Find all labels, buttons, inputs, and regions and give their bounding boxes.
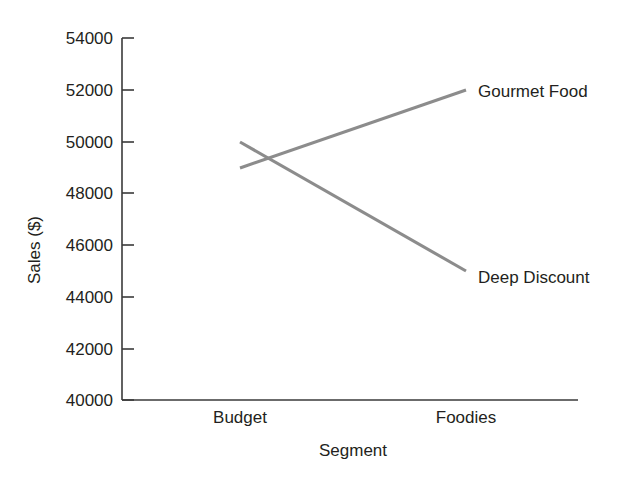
- y-tick-label-4: 46000: [66, 236, 113, 255]
- interaction-plot-chart: 54000 52000 50000 48000 46000 44000 4200…: [0, 0, 634, 486]
- series-line-deep-discount: [240, 142, 466, 271]
- x-axis-title: Segment: [319, 441, 387, 460]
- y-tick-label-3: 48000: [66, 184, 113, 203]
- series-label-gourmet-food: Gourmet Food: [478, 82, 588, 101]
- y-tick-label-2: 50000: [66, 133, 113, 152]
- series-line-gourmet-food: [240, 90, 466, 168]
- series-label-deep-discount: Deep Discount: [478, 268, 590, 287]
- x-tick-label-budget: Budget: [213, 408, 267, 427]
- y-axis-ticks: [122, 38, 134, 400]
- y-tick-label-7: 40000: [66, 391, 113, 410]
- y-axis-title: Sales ($): [25, 216, 44, 284]
- y-tick-label-5: 44000: [66, 288, 113, 307]
- y-tick-label-0: 54000: [66, 29, 113, 48]
- chart-canvas: 54000 52000 50000 48000 46000 44000 4200…: [0, 0, 634, 486]
- y-tick-label-1: 52000: [66, 81, 113, 100]
- y-tick-label-6: 42000: [66, 340, 113, 359]
- x-tick-label-foodies: Foodies: [436, 408, 496, 427]
- y-axis-tick-labels: 54000 52000 50000 48000 46000 44000 4200…: [66, 29, 113, 410]
